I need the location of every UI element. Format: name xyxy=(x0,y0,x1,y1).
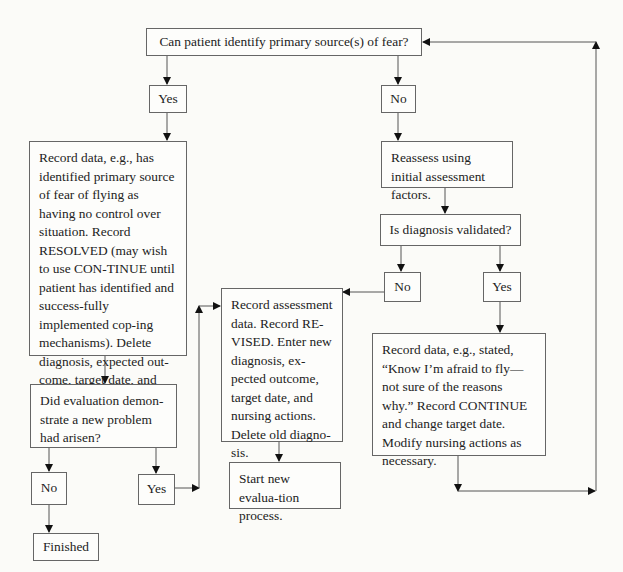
answer-no-new-problem: No xyxy=(31,472,67,505)
node-text: Record data, e.g., stated, “Know I’m afr… xyxy=(382,342,527,468)
node-text: Did evaluation demon-strate a new proble… xyxy=(40,393,163,445)
node-text: No xyxy=(390,90,406,109)
node-text: No xyxy=(41,479,57,498)
answer-yes: Yes xyxy=(149,85,187,113)
node-text: Record assessment data. Record RE-VISED.… xyxy=(231,297,333,460)
question-identify-source: Can patient identify primary source(s) o… xyxy=(146,28,422,56)
reassess-box: Reassess using initial assessment factor… xyxy=(381,141,513,188)
answer-no-validated: No xyxy=(384,272,421,302)
node-text: Yes xyxy=(492,278,511,297)
node-text: Finished xyxy=(43,538,89,557)
node-text: No xyxy=(394,278,410,297)
record-resolved-box: Record data, e.g., has identified primar… xyxy=(29,141,187,356)
node-text: Record data, e.g., has identified primar… xyxy=(39,150,175,406)
answer-yes-new-problem: Yes xyxy=(138,474,175,505)
node-text: Is diagnosis validated? xyxy=(390,221,512,240)
node-text: Yes xyxy=(158,90,177,109)
answer-yes-validated: Yes xyxy=(483,272,521,302)
node-text: Yes xyxy=(147,480,166,499)
answer-no: No xyxy=(381,85,416,113)
question-diagnosis-validated: Is diagnosis validated? xyxy=(380,214,521,246)
record-revised-box: Record assessment data. Record RE-VISED.… xyxy=(221,288,343,442)
start-new-evaluation-box: Start new evalua-tion process. xyxy=(229,462,341,509)
finished-box: Finished xyxy=(33,533,99,561)
node-text: Can patient identify primary source(s) o… xyxy=(159,33,408,52)
question-new-problem: Did evaluation demon-strate a new proble… xyxy=(30,384,177,448)
record-continue-box: Record data, e.g., stated, “Know I’m afr… xyxy=(372,333,546,456)
